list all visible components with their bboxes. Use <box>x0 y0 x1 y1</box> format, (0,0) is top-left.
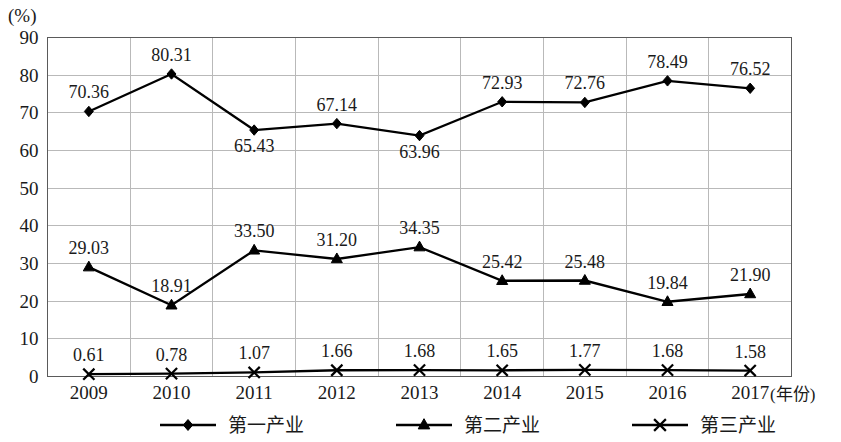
x-axis-tick-label: 2015 <box>566 382 604 403</box>
chart-container: (%) 0102030405060708090 2009201020112012… <box>0 0 841 442</box>
data-point-label: 76.52 <box>730 59 771 79</box>
y-axis-tick-label: 60 <box>20 140 39 161</box>
legend-item-label: 第二产业 <box>464 415 540 436</box>
data-point-label: 65.43 <box>234 136 275 156</box>
data-point-label: 1.68 <box>404 341 436 361</box>
y-axis-tick-label: 80 <box>20 65 39 86</box>
x-axis-title: (年份) <box>770 385 815 404</box>
data-point-label: 1.58 <box>734 342 766 362</box>
data-point-label: 80.31 <box>151 45 192 65</box>
x-axis-tick-label: 2009 <box>70 382 108 403</box>
data-point-label: 72.76 <box>565 73 606 93</box>
data-point-label: 1.66 <box>321 341 353 361</box>
legend-item-label: 第一产业 <box>228 415 304 436</box>
data-point-label: 1.68 <box>652 341 684 361</box>
data-point-label: 21.90 <box>730 265 771 285</box>
y-axis-tick-label: 30 <box>20 253 39 274</box>
x-axis-tick-label: 2013 <box>401 382 439 403</box>
data-point-label: 33.50 <box>234 221 275 241</box>
y-axis-tick-label: 70 <box>20 102 39 123</box>
data-point-label: 72.93 <box>482 73 523 93</box>
y-axis-unit-label: (%) <box>8 5 36 27</box>
data-point-label: 1.77 <box>569 341 601 361</box>
x-axis-tick-label: 2012 <box>318 382 356 403</box>
data-point-label: 63.96 <box>399 142 440 162</box>
data-point-label: 0.61 <box>73 345 105 365</box>
data-point-label: 31.20 <box>317 230 358 250</box>
data-point-label: 29.03 <box>69 238 110 258</box>
x-axis-tick-label: 2014 <box>483 382 522 403</box>
y-axis-tick-label: 40 <box>20 215 39 236</box>
y-axis-tick-label: 20 <box>20 291 39 312</box>
data-point-label: 1.65 <box>486 341 518 361</box>
y-axis-tick-label: 0 <box>29 366 39 387</box>
data-point-label: 67.14 <box>317 95 358 115</box>
data-point-label: 1.07 <box>238 343 270 363</box>
line-chart: (%) 0102030405060708090 2009201020112012… <box>0 0 841 442</box>
y-axis-tick-label: 50 <box>20 178 39 199</box>
data-point-label: 0.78 <box>156 345 188 365</box>
data-point-label: 34.35 <box>399 218 440 238</box>
x-axis-tick-label: 2017 <box>731 382 769 403</box>
y-axis-tick-label: 10 <box>20 328 39 349</box>
x-axis-tick-label: 2010 <box>153 382 191 403</box>
data-point-label: 70.36 <box>69 82 110 102</box>
data-point-label: 18.91 <box>151 276 192 296</box>
legend-item-label: 第三产业 <box>700 415 776 436</box>
x-axis-tick-label: 2016 <box>649 382 687 403</box>
data-point-label: 25.42 <box>482 252 523 272</box>
y-axis-tick-label: 90 <box>20 27 39 48</box>
x-axis-tick-label: 2011 <box>236 382 273 403</box>
data-point-label: 19.84 <box>647 273 688 293</box>
data-point-label: 78.49 <box>647 52 688 72</box>
x-axis-tick-labels: 200920102011201220132014201520162017 <box>70 382 769 403</box>
data-point-label: 25.48 <box>565 252 606 272</box>
